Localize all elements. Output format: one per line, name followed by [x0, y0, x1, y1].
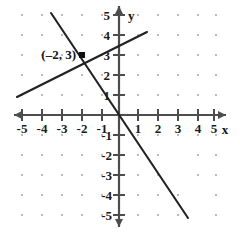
x-tick-label: 4: [195, 121, 202, 136]
y-axis-top-arrow: [115, 6, 123, 14]
y-tick-label: 5: [104, 8, 111, 23]
coordinate-plane-figure: -5 -4 -3 -2 -1 1 2 3 4 5 5 4 3 2 1 -1 -2…: [0, 0, 240, 233]
x-axis-left-arrow: [14, 111, 22, 119]
y-tick-label: -1: [101, 128, 112, 143]
graph-canvas: -5 -4 -3 -2 -1 1 2 3 4 5 5 4 3 2 1 -1 -2…: [0, 0, 240, 233]
x-tick-label: -4: [37, 121, 48, 136]
x-tick-label: 2: [155, 121, 162, 136]
y-tick-label: 4: [104, 28, 111, 43]
x-tick-label: 3: [175, 121, 182, 136]
y-axis-bottom-arrow: [115, 219, 123, 227]
y-tick-label: -4: [101, 188, 112, 203]
x-axis-label: x: [222, 122, 229, 137]
y-tick-label: -2: [101, 148, 112, 163]
y-tick-label: 2: [104, 68, 111, 83]
y-tick-label: -5: [101, 208, 112, 223]
plotted-point-label: (–2, 3): [41, 47, 76, 62]
x-tick-label: -2: [77, 121, 88, 136]
x-tick-labels: -5 -4 -3 -2 -1 1 2 3 4 5: [17, 121, 218, 136]
x-tick-label: -5: [17, 121, 28, 136]
x-tick-label: 1: [135, 121, 142, 136]
x-tick-label: -3: [57, 121, 68, 136]
x-tick-label: 5: [211, 121, 218, 136]
y-axis-label: y: [128, 8, 135, 23]
y-tick-label: -3: [101, 168, 112, 183]
x-axis-right-arrow: [218, 111, 226, 119]
plotted-point-marker: [79, 52, 85, 58]
rising-line: [17, 32, 147, 97]
